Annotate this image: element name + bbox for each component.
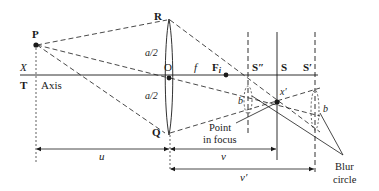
label-r: R — [154, 10, 163, 22]
label-u: u — [99, 150, 105, 162]
point-p — [33, 42, 38, 47]
label-q: Q — [152, 126, 161, 138]
label-v-prime: v′ — [240, 171, 248, 183]
blur-circle-leader-1 — [252, 96, 343, 155]
label-x-prime: x′ — [279, 86, 287, 97]
label-point-in-focus-1: Point — [209, 122, 231, 133]
point-x-prime — [274, 99, 279, 104]
label-fi: Fi — [212, 61, 222, 75]
point-o — [167, 76, 172, 81]
incident-rays — [37, 20, 169, 133]
label-blur-circle-1: Blur — [335, 161, 354, 172]
point-fi — [224, 73, 229, 78]
label-a-half-top: a/2 — [145, 47, 158, 58]
label-x: X — [19, 61, 28, 73]
label-s-double-prime: S″ — [252, 61, 264, 73]
label-axis: Axis — [41, 79, 62, 91]
label-o: O — [164, 61, 172, 73]
label-t: T — [20, 79, 28, 91]
lens-diagram: P R Q O X T Axis a/2 a/2 f Fi S″ S S′ x′… — [0, 0, 379, 191]
label-point-in-focus-2: in focus — [203, 134, 237, 145]
label-b-left: b — [238, 95, 243, 106]
label-a-half-bottom: a/2 — [145, 90, 158, 101]
label-p: P — [32, 28, 39, 40]
label-v: v — [221, 150, 226, 162]
refracted-rays — [170, 20, 320, 133]
label-s-prime: S′ — [303, 61, 312, 73]
label-blur-circle-2: circle — [333, 174, 357, 185]
blur-circle-leader-2 — [320, 113, 343, 155]
label-f: f — [194, 61, 199, 73]
label-s: S — [281, 61, 287, 73]
label-b-right: b — [323, 103, 328, 114]
